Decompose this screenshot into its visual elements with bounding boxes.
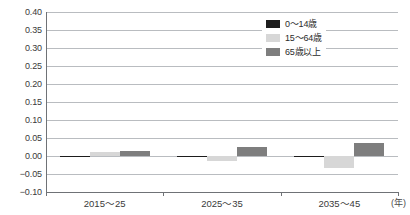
y-axis-tick-label: 0.10 (2, 115, 42, 125)
bar (120, 151, 150, 156)
y-axis-tick-label: 0.00 (2, 151, 42, 161)
chart-legend: 0〜14歳15〜64歳65歳以上 (262, 16, 326, 60)
y-axis-tick-label: −0.05 (2, 169, 42, 179)
bar (324, 156, 354, 168)
y-axis-line (46, 12, 47, 192)
y-axis-tick-label: 0.30 (2, 43, 42, 53)
y-axis-tick-label: 0.35 (2, 25, 42, 35)
bar (60, 156, 90, 157)
bar (207, 156, 237, 161)
y-axis-tick-label: −0.10 (2, 187, 42, 197)
legend-swatch-icon (266, 34, 280, 42)
bar (90, 152, 120, 156)
y-axis-tick-label: 0.40 (2, 7, 42, 17)
legend-item-label: 0〜14歳 (285, 17, 317, 30)
x-axis-unit: (年) (391, 196, 406, 209)
y-axis-tick-label: 0.15 (2, 97, 42, 107)
legend-item-label: 15〜64歳 (285, 31, 322, 44)
x-axis-tick-label: 2035〜45 (318, 196, 360, 210)
legend-item-label: 65歳以上 (285, 45, 321, 58)
y-axis-tick-label: 0.05 (2, 133, 42, 143)
x-axis-tick-label: 2015〜25 (84, 196, 126, 210)
legend-swatch-icon (266, 20, 280, 28)
y-axis-tick-label: 0.20 (2, 79, 42, 89)
legend-swatch-icon (266, 48, 280, 56)
y-axis-tick-label: 0.25 (2, 61, 42, 71)
bar (237, 147, 267, 156)
legend-item[interactable]: 65歳以上 (266, 46, 322, 57)
bar-group (46, 12, 163, 192)
bar (294, 156, 324, 157)
x-axis-line (46, 192, 398, 193)
x-axis-tick (281, 192, 282, 196)
x-axis-tick (163, 192, 164, 196)
y-axis-labels: 0.400.350.300.250.200.150.100.050.00−0.0… (0, 12, 42, 192)
bar (177, 156, 207, 157)
plot-area (46, 12, 398, 192)
legend-item[interactable]: 0〜14歳 (266, 18, 322, 29)
chart-container: 0.400.350.300.250.200.150.100.050.00−0.0… (0, 0, 410, 215)
bar (354, 143, 384, 156)
x-axis-tick-label: 2025〜35 (201, 196, 243, 210)
x-axis-tick (46, 192, 47, 196)
legend-item[interactable]: 15〜64歳 (266, 32, 322, 43)
